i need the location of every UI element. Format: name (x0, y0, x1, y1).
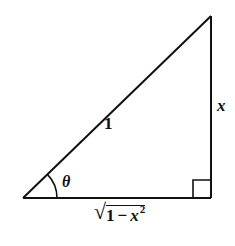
opposite-side-label: x (217, 97, 226, 114)
hypotenuse-side (23, 16, 211, 198)
angle-arc-icon (47, 174, 57, 198)
radicand-minus: − (118, 207, 128, 224)
angle-theta-label: θ (62, 174, 70, 190)
radicand-one: 1 (106, 207, 115, 224)
radicand: 1 − x 2 (106, 205, 145, 224)
hypotenuse-label: 1 (104, 115, 113, 132)
square-root-icon: √ (94, 201, 106, 223)
right-angle-marker-icon (193, 180, 211, 198)
radicand-exponent: 2 (140, 204, 146, 215)
radicand-variable: x (130, 207, 139, 224)
adjacent-side-label: √ 1 − x 2 (94, 203, 145, 224)
